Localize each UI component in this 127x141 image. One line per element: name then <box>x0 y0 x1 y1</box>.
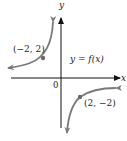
origin-label: 0 <box>53 80 58 90</box>
function-label: y = f(x) <box>69 54 104 64</box>
point-label-2-neg2: (2, −2) <box>84 98 116 108</box>
y-axis-label: y <box>58 0 65 10</box>
function-graph-diagram: y x 0 (−2, 2) (2, −2) y = f(x) <box>0 0 127 141</box>
point-neg2-2 <box>41 56 45 60</box>
point-2-neg2 <box>78 95 82 99</box>
curve-branch-lower-right <box>67 88 116 133</box>
point-label-neg2-2: (−2, 2) <box>13 44 45 54</box>
x-axis-label: x <box>121 73 126 83</box>
graph-canvas: y x 0 (−2, 2) (2, −2) y = f(x) <box>0 0 127 141</box>
